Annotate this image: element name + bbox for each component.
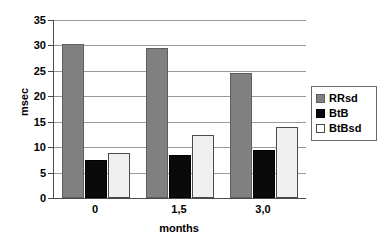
legend-item-label: RRsd — [329, 93, 358, 104]
bar-rrsd-1 — [146, 48, 168, 198]
bar-btb-2 — [253, 150, 275, 198]
bar-btbsd-1 — [192, 135, 214, 198]
x-axis-title: months — [53, 222, 305, 234]
bar-group — [62, 20, 130, 198]
y-axis-tick-label: 0 — [20, 193, 46, 203]
y-axis-tick-mark — [48, 45, 53, 46]
x-axis-tick-label: 0 — [65, 203, 125, 215]
legend-swatch-icon — [316, 109, 325, 118]
legend-item-rrsd[interactable]: RRsd — [316, 91, 373, 106]
legend-item-label: BtBsd — [329, 123, 361, 134]
bar-btbsd-2 — [276, 127, 298, 198]
legend-swatch-icon — [316, 124, 325, 133]
y-axis-tick-label: 25 — [20, 66, 46, 76]
y-axis-tick-label: 10 — [20, 142, 46, 152]
bar-rrsd-2 — [230, 73, 252, 198]
bar-btb-1 — [169, 155, 191, 198]
legend-item-label: BtB — [329, 108, 349, 119]
y-axis-tick-label: 15 — [20, 117, 46, 127]
legend-item-btb[interactable]: BtB — [316, 106, 373, 121]
y-axis-tick-mark — [48, 122, 53, 123]
bar-btb-0 — [85, 160, 107, 198]
y-axis-tick-label: 5 — [20, 168, 46, 178]
y-axis-tick-label: 35 — [20, 15, 46, 25]
legend-swatch-icon — [316, 94, 325, 103]
y-axis-tick-label: 30 — [20, 40, 46, 50]
plot-area — [53, 20, 306, 199]
y-axis-tick-mark — [48, 198, 53, 199]
x-axis-tick-label: 3,0 — [233, 203, 293, 215]
legend-item-btbsd[interactable]: BtBsd — [316, 121, 373, 136]
bar-chart: msec 05101520253035 months RRsdBtBBtBsd … — [0, 0, 389, 247]
y-axis-tick-mark — [48, 20, 53, 21]
y-axis-tick-mark — [48, 173, 53, 174]
bar-group — [146, 20, 214, 198]
y-axis-tick-mark — [48, 71, 53, 72]
y-axis-tick-mark — [48, 96, 53, 97]
bar-btbsd-0 — [108, 153, 130, 198]
bar-rrsd-0 — [62, 44, 84, 198]
bar-group — [230, 20, 298, 198]
legend: RRsdBtBBtBsd — [311, 86, 377, 141]
y-axis-tick-label: 20 — [20, 91, 46, 101]
y-axis-tick-mark — [48, 147, 53, 148]
y-axis-tick-labels: 05101520253035 — [20, 20, 46, 198]
x-axis-tick-label: 1,5 — [149, 203, 209, 215]
